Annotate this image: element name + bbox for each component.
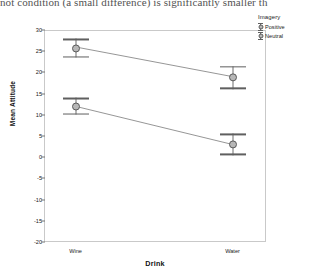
document-cut-text: not condition (a small difference) is si…: [0, 0, 310, 9]
legend-item: Neutral: [258, 32, 310, 40]
error-bar-cap-upper: [63, 38, 89, 40]
legend-entries: PositiveNeutral: [258, 23, 310, 40]
legend-errorbar-icon: [258, 32, 263, 40]
legend: Imagery PositiveNeutral: [258, 14, 310, 41]
error-bar-point: [220, 66, 246, 89]
legend-errorbar-icon: [258, 23, 263, 31]
data-points: [0, 12, 310, 268]
error-bar-cap-lower: [63, 113, 89, 115]
legend-item-label: Neutral: [265, 33, 283, 39]
data-marker: [229, 74, 237, 82]
error-bar-cap-lower: [220, 88, 246, 90]
legend-item-label: Positive: [265, 24, 285, 30]
error-bar-cap-lower: [220, 153, 246, 155]
error-bar-cap-upper: [220, 134, 246, 136]
error-bar-cap-upper: [220, 66, 246, 68]
error-bar-point: [220, 134, 246, 155]
error-bar-cap-upper: [63, 98, 89, 100]
data-marker: [72, 44, 80, 52]
chart-figure: Mean Attitude 302520151050-5-10-15-20 Wi…: [0, 12, 310, 268]
legend-item: Positive: [258, 23, 310, 31]
error-bar-cap-lower: [63, 56, 89, 58]
legend-title: Imagery: [258, 14, 310, 20]
data-marker: [72, 102, 80, 110]
error-bar-point: [63, 98, 89, 115]
error-bar-point: [63, 38, 89, 57]
data-marker: [229, 140, 237, 148]
